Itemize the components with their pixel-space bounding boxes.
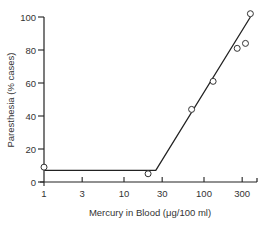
- y-tick-label: 100: [20, 12, 36, 23]
- y-ticks: 020406080100: [20, 12, 44, 188]
- data-points: [41, 11, 253, 177]
- data-point-marker: [41, 164, 47, 170]
- chart: 020406080100 131030100300 Mercury in Blo…: [0, 0, 269, 229]
- x-tick-label: 1: [41, 188, 46, 199]
- x-ticks: 131030100300: [41, 177, 250, 199]
- data-point-marker: [234, 45, 240, 51]
- axes: [40, 17, 257, 182]
- x-tick-label: 3: [80, 188, 85, 199]
- x-tick-label: 100: [196, 188, 212, 199]
- y-tick-label: 40: [25, 111, 36, 122]
- data-point-marker: [242, 40, 248, 46]
- x-axis-title: Mercury in Blood (μg/100 ml): [89, 207, 211, 218]
- data-point-marker: [247, 11, 253, 17]
- x-tick-label: 300: [234, 188, 250, 199]
- y-tick-label: 60: [25, 78, 36, 89]
- x-tick-label: 30: [157, 188, 168, 199]
- y-tick-label: 0: [31, 177, 36, 188]
- y-tick-label: 20: [25, 144, 36, 155]
- y-tick-label: 80: [25, 45, 36, 56]
- data-point-marker: [189, 106, 195, 112]
- fitted-line: [44, 17, 250, 170]
- y-axis-title: Paresthesia (% cases): [5, 52, 16, 147]
- data-point-marker: [145, 171, 151, 177]
- fitted-line-path: [44, 17, 250, 170]
- data-point-marker: [210, 78, 216, 84]
- x-tick-label: 10: [119, 188, 130, 199]
